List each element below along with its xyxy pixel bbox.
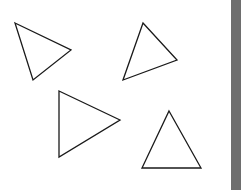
triangle-shape bbox=[142, 111, 201, 168]
triangles-canvas bbox=[0, 0, 231, 190]
triangle-shape bbox=[123, 23, 177, 80]
triangle-shape bbox=[59, 91, 120, 157]
triangle-shape bbox=[15, 23, 71, 80]
side-bar bbox=[231, 0, 241, 190]
